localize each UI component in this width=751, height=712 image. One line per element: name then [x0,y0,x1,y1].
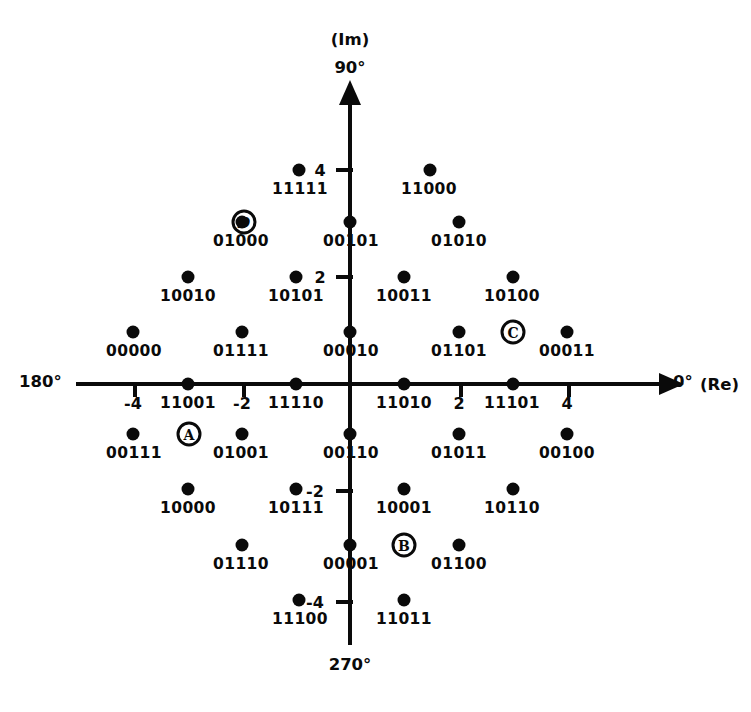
constellation-point [127,326,140,339]
constellation-point [236,216,249,229]
constellation-point-label: 10001 [376,499,432,517]
region-marker-b: B [392,533,417,558]
constellation-point-label: 10010 [160,287,216,305]
constellation-point [344,539,357,552]
constellation-point [290,483,303,496]
constellation-diagram: 4 2 -2 -4 -4 -2 2 4 (Im) 90° 270° 180° 0… [0,0,751,712]
x-tick-label-2: 2 [453,394,464,413]
constellation-point-label: 00100 [539,444,595,462]
constellation-point-label: 01101 [431,342,487,360]
constellation-point-label: 11111 [272,180,328,198]
constellation-point [561,428,574,441]
constellation-point [398,271,411,284]
constellation-point [344,216,357,229]
constellation-point [182,271,195,284]
constellation-point-label: 00011 [539,342,595,360]
region-marker-c-label: C [507,325,518,339]
region-marker-a: A [177,422,202,447]
y-tick-neg2 [336,489,353,493]
constellation-point-label: 00010 [323,342,379,360]
angle-label-180: 180° [19,372,62,391]
constellation-point [293,594,306,607]
y-tick-label-4: 4 [314,161,325,180]
region-marker-c: C [501,320,526,345]
real-axis-line [76,382,661,386]
constellation-point-label: 10101 [268,287,324,305]
constellation-point [344,326,357,339]
imaginary-axis-caption: (Im) [331,30,369,49]
constellation-point [453,428,466,441]
constellation-point-label: 00000 [106,342,162,360]
constellation-point [398,594,411,607]
y-tick-2 [336,275,353,279]
angle-label-0: 0° [673,372,693,391]
constellation-point-label: 11011 [376,610,432,628]
angle-label-270: 270° [329,655,372,674]
constellation-point-label: 01111 [213,342,269,360]
constellation-point-label: 00111 [106,444,162,462]
constellation-point-label: 01000 [213,232,269,250]
constellation-point-label: 00101 [323,232,379,250]
constellation-point [236,539,249,552]
constellation-point [293,164,306,177]
x-tick-label-neg4: -4 [124,394,142,413]
constellation-point-label: 01100 [431,555,487,573]
constellation-point-label: 11110 [268,394,324,412]
constellation-point [344,428,357,441]
constellation-point [182,483,195,496]
constellation-point-label: 01011 [431,444,487,462]
constellation-point-label: 10011 [376,287,432,305]
constellation-point-label: 11001 [160,394,216,412]
constellation-point [290,271,303,284]
constellation-point-label: 11010 [376,394,432,412]
x-tick-label-neg2: -2 [233,394,251,413]
constellation-point-label: 10100 [484,287,540,305]
x-tick-label-4: 4 [561,394,572,413]
region-marker-b-label: B [398,538,410,552]
constellation-point-label: 10111 [268,499,324,517]
constellation-point-label: 00110 [323,444,379,462]
real-axis-caption: (Re) [700,375,739,394]
constellation-point [507,378,520,391]
constellation-point [127,428,140,441]
constellation-point-label: 10110 [484,499,540,517]
constellation-point [453,539,466,552]
region-marker-a-label: A [184,427,195,441]
constellation-point [290,378,303,391]
constellation-point [236,326,249,339]
constellation-point [424,164,437,177]
constellation-point-label: 11101 [484,394,540,412]
constellation-point [561,326,574,339]
constellation-point-label: 11100 [272,610,328,628]
constellation-point [453,216,466,229]
constellation-point [453,326,466,339]
y-tick-4 [336,168,353,172]
constellation-point [236,428,249,441]
y-tick-label-2: 2 [314,268,325,287]
constellation-point-label: 00001 [323,555,379,573]
constellation-point [398,483,411,496]
constellation-point-label: 01110 [213,555,269,573]
constellation-point [507,483,520,496]
imaginary-axis-arrowhead [339,80,361,105]
constellation-point [398,378,411,391]
angle-label-90: 90° [334,58,365,77]
constellation-point-label: 01001 [213,444,269,462]
constellation-point-label: 01010 [431,232,487,250]
constellation-point [507,271,520,284]
constellation-point-label: 10000 [160,499,216,517]
constellation-point [182,378,195,391]
y-tick-neg4 [336,600,353,604]
constellation-point-label: 11000 [401,180,457,198]
